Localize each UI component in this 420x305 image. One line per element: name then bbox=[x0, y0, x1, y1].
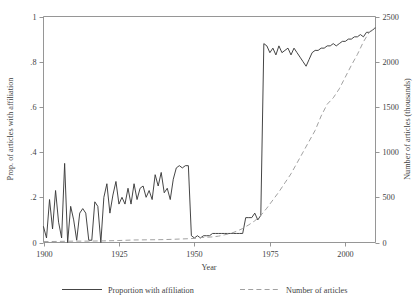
y-left-tick-label: .2 bbox=[30, 193, 36, 202]
chart-legend: Proportion with affiliation Number of ar… bbox=[62, 286, 347, 295]
dual-axis-line-chart: 0.2.4.6.81 05001000150020002500 19001925… bbox=[0, 0, 420, 305]
y-right-tick-label: 2000 bbox=[383, 58, 399, 67]
y-right-tick-label: 0 bbox=[383, 239, 387, 248]
y-left-tick-label: .4 bbox=[30, 148, 36, 157]
y-axis-right-title: Number of articles (thousands) bbox=[403, 78, 412, 180]
x-axis-ticks bbox=[45, 243, 346, 247]
legend-label-number-of-articles: Number of articles bbox=[286, 286, 347, 295]
plot-frame bbox=[44, 17, 376, 243]
x-axis-title: Year bbox=[201, 263, 216, 272]
x-tick-label: 1925 bbox=[111, 250, 127, 259]
legend-label-proportion-with-affiliation: Proportion with affiliation bbox=[108, 286, 194, 295]
y-right-tick-label: 500 bbox=[383, 193, 395, 202]
y-axis-right-ticks bbox=[376, 18, 380, 244]
y-left-tick-label: .6 bbox=[30, 103, 36, 112]
y-right-tick-label: 2500 bbox=[383, 13, 399, 22]
x-tick-label: 1950 bbox=[186, 250, 202, 259]
series-number-of-articles bbox=[44, 27, 376, 241]
y-left-tick-label: 1 bbox=[32, 13, 36, 22]
series-proportion-with-affiliation bbox=[44, 28, 376, 243]
y-right-tick-label: 1500 bbox=[383, 103, 399, 112]
y-left-tick-label: 0 bbox=[32, 239, 36, 248]
x-tick-label: 1975 bbox=[262, 250, 278, 259]
x-tick-label: 1900 bbox=[36, 250, 52, 259]
y-right-tick-label: 1000 bbox=[383, 148, 399, 157]
chart-figure: 0.2.4.6.81 05001000150020002500 19001925… bbox=[0, 0, 420, 305]
y-left-tick-label: .8 bbox=[30, 58, 36, 67]
y-axis-right-tick-labels: 05001000150020002500 bbox=[383, 13, 399, 248]
y-axis-left-ticks bbox=[40, 18, 44, 244]
y-axis-left-tick-labels: 0.2.4.6.81 bbox=[30, 13, 36, 248]
y-axis-left-title: Prop. of articles with affiliation bbox=[6, 78, 15, 181]
x-tick-label: 2000 bbox=[337, 250, 353, 259]
x-axis-tick-labels: 19001925195019752000 bbox=[36, 250, 353, 259]
